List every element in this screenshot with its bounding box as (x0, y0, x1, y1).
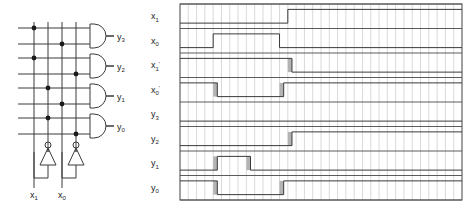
glitch-y2-0 (288, 132, 292, 146)
timing-label-x1: x1 (151, 11, 160, 23)
glitch-y0-1 (280, 181, 284, 195)
timing-label-y1: y1 (151, 158, 160, 170)
junction-dot-0 (32, 26, 37, 31)
junction-dot-2 (32, 56, 37, 61)
output-label-y2: y2 (117, 62, 126, 73)
glitch-x1p-0 (288, 58, 292, 72)
timing-svg: x1x0x1'x0'y3y2y1y0 (145, 0, 471, 206)
and-gate-y1 (90, 84, 106, 108)
timing-label-x0: x0 (151, 36, 160, 48)
junction-dot-5 (60, 102, 65, 107)
timing-waveform-diagram: x1x0x1'x0'y3y2y1y0 (145, 0, 471, 206)
glitch-y1-1 (246, 156, 250, 170)
and-gate-y3 (90, 24, 106, 48)
timing-label-y0: y0 (151, 183, 160, 195)
timing-label-y3: y3 (151, 109, 160, 121)
glitch-y1-0 (213, 156, 217, 170)
timing-label-x0p: x0' (151, 85, 160, 97)
glitch-x0p-0 (213, 83, 217, 97)
output-label-y3: y3 (117, 32, 126, 43)
circuit-svg: y3y2y1y0x1x0 (0, 0, 160, 206)
junction-dot-6 (46, 116, 51, 121)
glitch-x0p-1 (280, 83, 284, 97)
output-label-y0: y0 (117, 122, 126, 133)
input-label-x0: x0 (58, 190, 67, 201)
junction-dot-3 (74, 72, 79, 77)
timing-label-x1p: x1' (151, 60, 160, 72)
and-gate-y2 (90, 54, 106, 78)
junction-dot-1 (60, 42, 65, 47)
junction-dot-4 (46, 86, 51, 91)
timing-label-y2: y2 (151, 134, 160, 146)
junction-dot-7 (74, 132, 79, 137)
input-label-x1: x1 (30, 190, 39, 201)
glitch-y0-0 (213, 181, 217, 195)
decoder-circuit-schematic: y3y2y1y0x1x0 (0, 0, 160, 206)
output-label-y1: y1 (117, 92, 126, 103)
figure-root: y3y2y1y0x1x0 x1x0x1'x0'y3y2y1y0 (0, 0, 471, 206)
and-gate-y0 (90, 114, 106, 138)
